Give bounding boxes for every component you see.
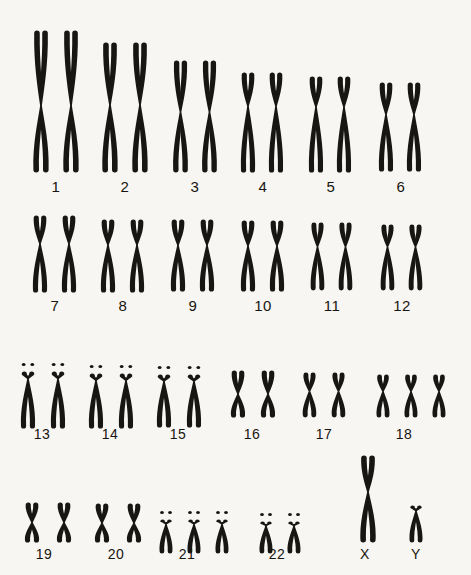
chromosome-label-18: 18 [374, 426, 434, 442]
chromosome-label-16: 16 [222, 426, 282, 442]
chromosome-label-x: X [345, 546, 385, 562]
chromosome-label-7: 7 [28, 297, 82, 314]
chromosome-label-15: 15 [148, 426, 208, 442]
chromosome-label-3: 3 [168, 178, 222, 195]
chromosome-label-10: 10 [234, 297, 292, 314]
chromosome-label-y: Y [396, 546, 436, 562]
karyotype-figure: 12345678910111213141516171819202122XY [0, 0, 471, 575]
chromosome-label-8: 8 [96, 297, 150, 314]
chromosome-label-17: 17 [294, 426, 354, 442]
chromosome-label-20: 20 [86, 546, 146, 562]
chromosome-label-6: 6 [374, 178, 428, 195]
chromosome-label-11: 11 [304, 297, 360, 314]
chromosome-label-4: 4 [236, 178, 290, 195]
chromosome-label-1: 1 [28, 178, 84, 195]
chromosome-label-9: 9 [166, 297, 220, 314]
chromosome-label-5: 5 [304, 178, 358, 195]
chromosome-label-2: 2 [97, 178, 153, 195]
chromosome-label-12: 12 [374, 297, 430, 314]
chromosome-label-14: 14 [80, 426, 140, 442]
chromosome-label-13: 13 [12, 426, 72, 442]
chromosome-label-22: 22 [247, 546, 307, 562]
chromosome-label-19: 19 [14, 546, 74, 562]
chromosome-label-21: 21 [157, 546, 217, 562]
